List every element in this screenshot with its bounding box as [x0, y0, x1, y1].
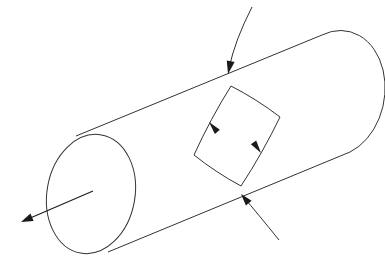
line-drawing-svg	[0, 0, 385, 263]
figure-canvas	[0, 0, 385, 263]
figure-background	[0, 0, 385, 263]
